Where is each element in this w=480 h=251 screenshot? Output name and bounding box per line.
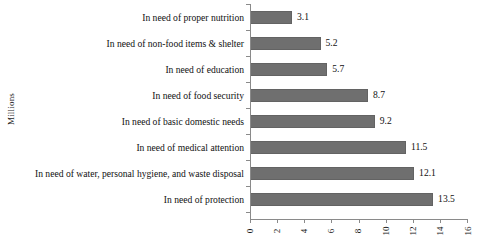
bar-value-label: 8.7	[373, 88, 385, 101]
x-axis-tick	[386, 219, 387, 223]
category-label: In need of education	[22, 64, 250, 75]
x-axis-tick-label: 12	[406, 226, 420, 246]
category-label: In need of food security	[22, 90, 250, 101]
bar-row: In need of medical attention11.5	[22, 134, 480, 160]
x-axis-tick-label: 0	[243, 226, 257, 246]
bar-row: In need of education5.7	[22, 56, 480, 82]
x-axis-tick-label: 10	[379, 226, 393, 246]
bar	[250, 115, 375, 128]
bar-value-label: 9.2	[380, 114, 392, 127]
bar-cell: 9.2	[250, 108, 474, 134]
x-axis-tick-label-text: 2	[272, 229, 282, 234]
bar-row: In need of basic domestic needs9.2	[22, 108, 480, 134]
bar-cell: 11.5	[250, 134, 474, 160]
bar-value-label: 5.7	[332, 62, 344, 75]
bar	[250, 167, 414, 180]
plot-area: In need of proper nutrition3.1In need of…	[22, 0, 480, 219]
bar-row: In need of non-food items & shelter5.2	[22, 30, 480, 56]
bar-value-label: 13.5	[438, 192, 455, 205]
x-axis-tick	[250, 219, 251, 223]
bar-cell: 13.5	[250, 186, 474, 212]
x-axis-tick-label: 16	[460, 226, 474, 246]
bar-cell: 5.2	[250, 30, 474, 56]
category-label: In need of medical attention	[22, 142, 250, 153]
x-axis-tick-label-text: 8	[354, 229, 364, 234]
x-axis-tick-label-text: 16	[462, 227, 472, 236]
x-axis-tick	[467, 219, 468, 223]
x-axis-tick-label: 4	[297, 226, 311, 246]
bar-cell: 3.1	[250, 4, 474, 30]
x-axis-tick	[413, 219, 414, 223]
bar-cell: 8.7	[250, 82, 474, 108]
category-label: In need of proper nutrition	[22, 12, 250, 23]
x-axis-tick	[277, 219, 278, 223]
x-axis-tick-label-text: 12	[408, 227, 418, 236]
bar	[250, 193, 433, 206]
x-axis-tick-label-text: 10	[381, 227, 391, 236]
bar-value-label: 12.1	[419, 166, 436, 179]
bar-row: In need of proper nutrition3.1	[22, 4, 480, 30]
bar	[250, 141, 406, 154]
bar-value-label: 5.2	[326, 36, 338, 49]
x-axis-tick	[304, 219, 305, 223]
x-axis-tick-label-text: 4	[299, 229, 309, 234]
x-axis-tick-label: 14	[433, 226, 447, 246]
y-axis-line	[250, 4, 251, 219]
bar-chart: Millions In need of proper nutrition3.1I…	[0, 0, 480, 251]
bar-cell: 5.7	[250, 56, 474, 82]
bar-row: In need of water, personal hygiene, and …	[22, 160, 480, 186]
x-axis-tick-label-text: 6	[326, 229, 336, 234]
bar-row: In need of food security8.7	[22, 82, 480, 108]
x-axis-tick	[359, 219, 360, 223]
bar-row: In need of protection13.5	[22, 186, 480, 212]
bar-value-label: 11.5	[411, 140, 427, 153]
x-axis-tick-label: 8	[352, 226, 366, 246]
x-axis-tick-label: 2	[270, 226, 284, 246]
x-axis-tick-label-text: 14	[435, 227, 445, 236]
bar	[250, 11, 292, 24]
y-axis-title: Millions	[0, 0, 22, 218]
bar	[250, 89, 368, 102]
bar-cell: 12.1	[250, 160, 474, 186]
category-label: In need of basic domestic needs	[22, 116, 250, 127]
category-label: In need of protection	[22, 194, 250, 205]
x-axis-tick	[440, 219, 441, 223]
bar	[250, 37, 321, 50]
x-axis-tick-label-text: 0	[245, 229, 255, 234]
bar	[250, 63, 327, 76]
category-label: In need of water, personal hygiene, and …	[22, 168, 250, 179]
x-axis-tick-label: 6	[324, 226, 338, 246]
category-label: In need of non-food items & shelter	[22, 38, 250, 49]
y-axis-title-label: Millions	[6, 93, 16, 125]
x-axis-tick	[331, 219, 332, 223]
bar-value-label: 3.1	[297, 10, 309, 23]
